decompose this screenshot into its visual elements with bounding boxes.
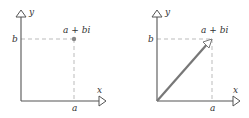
right-vector: [157, 42, 209, 101]
right-point-label: a + bi: [201, 25, 228, 35]
left-y-tick-label: b: [12, 34, 18, 44]
right-y-tick-label: b: [148, 34, 154, 44]
right-panel: y x a + bi b a: [148, 7, 240, 113]
left-point-label: a + bi: [63, 25, 90, 35]
right-x-arrow-icon: [233, 96, 240, 106]
left-x-arrow-icon: [99, 96, 106, 106]
right-y-arrow-icon: [152, 10, 162, 17]
left-x-tick-label: a: [72, 103, 77, 113]
left-x-axis-label: x: [97, 85, 102, 95]
right-x-axis-label: x: [233, 85, 238, 95]
right-x-tick-label: a: [210, 103, 215, 113]
left-y-arrow-icon: [16, 10, 26, 17]
left-panel: y x a + bi b a: [12, 7, 106, 113]
complex-plane-diagram: y x a + bi b a y x a + bi b a: [0, 0, 249, 118]
right-y-axis-label: y: [164, 7, 171, 17]
left-y-axis-label: y: [28, 7, 35, 17]
left-point: [72, 37, 76, 41]
